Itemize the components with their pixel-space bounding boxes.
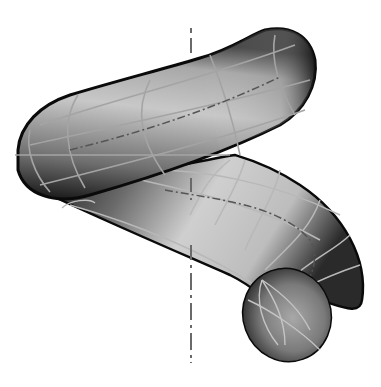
figure-canvas (0, 0, 381, 387)
helical-tube-diagram (0, 0, 381, 387)
